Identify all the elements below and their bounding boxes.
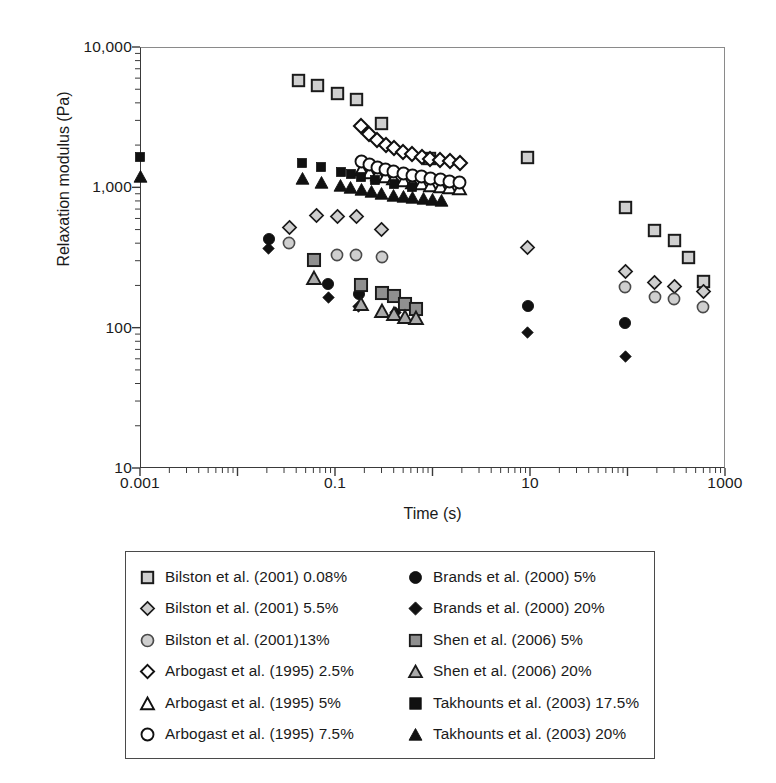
legend-entry[interactable]: Bilston et al. (2001) 5.5% [138,593,406,625]
data-point [618,264,633,279]
square-gray-light-icon [138,568,160,586]
data-point [309,208,324,223]
data-point-layer [140,47,725,468]
diamond-gray-light-icon [138,599,160,617]
triangle-open-icon [138,694,160,712]
data-point [408,310,424,326]
square-gray-mid-icon [406,631,428,649]
data-point [291,73,306,88]
data-point [349,209,364,224]
triangle-filled-icon [406,725,428,743]
data-point [321,277,335,291]
data-point [330,209,345,224]
data-point [434,193,449,208]
legend-entry[interactable]: Shen et al. (2006) 5% [406,624,648,656]
data-point [521,299,535,313]
legend-entry[interactable]: Arbogast et al. (1995) 2.5% [138,656,406,688]
data-point [647,223,662,238]
data-point [521,326,534,339]
triangle-gray-mid-icon [406,662,428,680]
legend-entry[interactable]: Takhounts et al. (2003) 17.5% [406,687,648,719]
data-point [349,92,364,107]
x-axis-title: Time (s) [140,505,725,523]
data-point [681,250,696,265]
legend-label: Takhounts et al. (2003) 20% [433,725,626,743]
x-tick-label: 0.001 [120,474,160,492]
data-point [618,280,632,294]
legend-entry[interactable]: Bilston et al. (2001)13% [138,624,406,656]
legend-entry[interactable]: Brands et al. (2000) 5% [406,561,648,593]
data-point [315,161,327,173]
legend-label: Bilston et al. (2001)13% [165,631,330,649]
data-point [134,151,146,163]
data-point [648,290,662,304]
legend-label: Brands et al. (2000) 5% [433,568,596,586]
legend-entry[interactable]: Arbogast et al. (1995) 7.5% [138,719,406,751]
figure-root: { "chart_data": { "type": "scatter", "ti… [0,0,776,783]
data-point [696,284,711,299]
data-point [310,78,325,93]
data-point [353,296,369,312]
circle-gray-light-icon [138,631,160,649]
x-tick-label: 0.1 [324,474,346,492]
y-tick-label: 1,000 [92,178,132,196]
data-point [133,169,148,184]
data-point [618,316,632,330]
legend-entry[interactable]: Shen et al. (2006) 20% [406,656,648,688]
legend-box: Bilston et al. (2001) 0.08%Bilston et al… [125,551,655,759]
x-tick-label: 1000 [707,474,742,492]
data-point [520,150,535,165]
legend-label: Arbogast et al. (1995) 5% [165,694,341,712]
data-point [696,300,710,314]
legend-label: Arbogast et al. (1995) 7.5% [165,725,354,743]
data-point [306,270,322,286]
legend-label: Arbogast et al. (1995) 2.5% [165,662,354,680]
diamond-open-icon [138,662,160,680]
data-point [330,248,344,262]
legend-entry[interactable]: Takhounts et al. (2003) 20% [406,719,648,751]
data-point [619,350,632,363]
legend-entry[interactable]: Arbogast et al. (1995) 5% [138,687,406,719]
legend-entry[interactable]: Bilston et al. (2001) 0.08% [138,561,406,593]
data-point [330,86,345,101]
data-point [322,291,335,304]
data-point [282,236,296,250]
chart-area: Relaxation modulus (Pa) 10,0001,00010010… [0,0,776,540]
circle-filled-icon [406,568,428,586]
data-point [452,155,468,171]
legend-label: Takhounts et al. (2003) 17.5% [433,694,639,712]
circle-open-icon [138,725,160,743]
data-point [306,252,322,268]
y-tick-label: 100 [106,319,132,337]
data-point [452,175,467,190]
legend-label: Brands et al. (2000) 20% [433,599,605,617]
data-point [520,240,535,255]
legend-label: Shen et al. (2006) 5% [433,631,583,649]
x-tick-label: 10 [521,474,539,492]
legend-label: Shen et al. (2006) 20% [433,662,592,680]
data-point [296,157,308,169]
legend-column-left: Bilston et al. (2001) 0.08%Bilston et al… [138,561,406,758]
data-point [262,242,275,255]
diamond-filled-icon [406,599,428,617]
data-point [295,171,310,186]
data-point [375,250,389,264]
data-point [374,222,389,237]
legend-label: Bilston et al. (2001) 5.5% [165,599,339,617]
square-filled-icon [406,694,428,712]
data-point [667,233,682,248]
data-point [647,275,662,290]
data-point [353,277,369,293]
data-point [314,175,329,190]
data-point [618,200,633,215]
data-point [282,220,297,235]
data-point [667,292,681,306]
legend-entry[interactable]: Brands et al. (2000) 20% [406,593,648,625]
legend-label: Bilston et al. (2001) 0.08% [165,568,347,586]
data-point [349,248,363,262]
y-tick-label: 10,000 [83,38,132,56]
legend-column-right: Brands et al. (2000) 5%Brands et al. (20… [406,561,648,758]
y-tick-labels: 10,0001,00010010 [58,0,132,540]
